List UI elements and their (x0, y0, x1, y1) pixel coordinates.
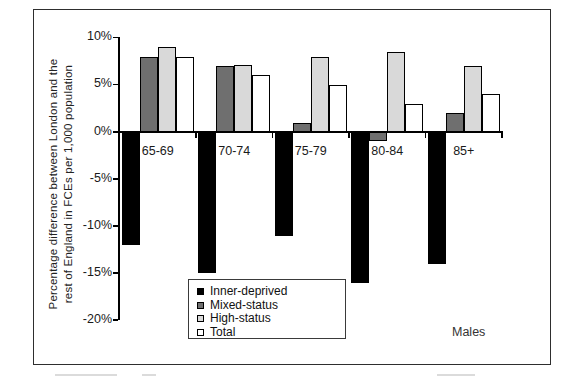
legend-item: Inner-deprived (197, 285, 341, 298)
x-axis-group-tick (195, 131, 197, 138)
bar (482, 94, 500, 132)
x-axis-group-tick (272, 131, 274, 138)
legend-label: Inner-deprived (210, 285, 287, 298)
y-tick-label: -5% (64, 171, 112, 185)
legend-swatch-icon (197, 315, 204, 322)
bar (351, 132, 369, 283)
y-axis-tick (113, 225, 118, 227)
bar (428, 132, 446, 264)
bar (329, 85, 347, 132)
legend-swatch-icon (197, 288, 204, 295)
y-axis-tick (113, 319, 118, 321)
legend-swatch-icon (197, 329, 204, 336)
y-axis-tick (113, 272, 118, 274)
cut-off-caption-fragment (142, 374, 156, 376)
x-axis-group-tick (348, 131, 350, 138)
bar (198, 132, 216, 273)
bar (216, 66, 234, 132)
males-label: Males (452, 325, 532, 339)
legend: Inner-deprivedMixed-statusHigh-statusTot… (188, 279, 346, 339)
legend-item: High-status (197, 312, 341, 325)
y-axis-tick (113, 84, 118, 86)
legend-label: Total (210, 326, 235, 339)
bar (446, 113, 464, 132)
bar (464, 66, 482, 132)
legend-item: Mixed-status (197, 299, 341, 312)
x-axis-group-tick (501, 131, 503, 138)
cut-off-caption-fragment (437, 374, 475, 376)
x-axis-group-tick (425, 131, 427, 138)
y-axis-tick (113, 178, 118, 180)
y-tick-label: 0% (64, 124, 112, 138)
bar (369, 132, 387, 141)
bar (158, 47, 176, 132)
bar (140, 57, 158, 132)
bar (234, 65, 252, 132)
bar (387, 52, 405, 132)
legend-swatch-icon (197, 302, 204, 309)
y-axis-title-line1: Percentage difference between London and… (46, 16, 61, 352)
y-tick-label: 10% (64, 29, 112, 43)
y-tick-label: 5% (64, 76, 112, 90)
legend-label: Mixed-status (210, 299, 278, 312)
y-tick-label: -10% (64, 218, 112, 232)
legend-label: High-status (210, 312, 271, 325)
y-axis-line (118, 37, 120, 320)
bar (405, 104, 423, 132)
y-axis-tick (113, 37, 118, 39)
x-axis-line (118, 131, 503, 133)
y-tick-label: -20% (64, 312, 112, 326)
bar (122, 132, 140, 245)
bar (252, 75, 270, 132)
cut-off-caption-fragment (55, 374, 117, 376)
bar (176, 57, 194, 132)
bar (311, 57, 329, 132)
bar (275, 132, 293, 236)
legend-item: Total (197, 326, 341, 339)
y-tick-label: -15% (64, 265, 112, 279)
